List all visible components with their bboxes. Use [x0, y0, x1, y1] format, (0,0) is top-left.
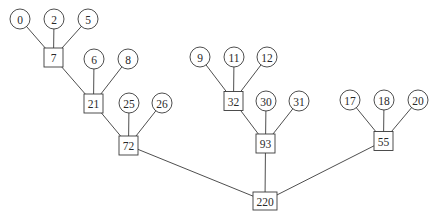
node-label: 220	[256, 196, 274, 208]
node-label: 18	[378, 95, 390, 107]
node-label: 12	[261, 52, 273, 64]
edges-layer	[20, 19, 418, 201]
node-label: 17	[344, 95, 356, 107]
node-label: 20	[412, 95, 424, 107]
leaf-node-0: 0	[10, 9, 30, 29]
internal-node-32: 32	[224, 92, 243, 111]
node-label: 93	[260, 138, 272, 150]
node-label: 5	[85, 14, 91, 26]
leaf-node-6: 6	[84, 49, 104, 69]
leaf-node-20: 20	[408, 90, 428, 110]
node-label: 7	[51, 52, 57, 64]
node-label: 31	[293, 96, 305, 108]
node-label: 30	[260, 96, 272, 108]
tree-diagram: 02576821252672911123230319317182055220	[0, 0, 437, 219]
edge-55-to-220	[265, 141, 384, 201]
node-label: 6	[91, 54, 97, 66]
leaf-node-12: 12	[257, 47, 277, 67]
leaf-node-8: 8	[118, 49, 138, 69]
leaf-node-30: 30	[256, 91, 276, 111]
internal-node-55: 55	[374, 132, 393, 151]
node-label: 32	[228, 96, 240, 108]
internal-node-220: 220	[253, 192, 277, 210]
leaf-node-18: 18	[374, 90, 394, 110]
nodes-layer: 02576821252672911123230319317182055220	[10, 9, 428, 210]
leaf-node-2: 2	[44, 9, 64, 29]
leaf-node-5: 5	[78, 9, 98, 29]
node-label: 0	[17, 14, 23, 26]
leaf-node-31: 31	[289, 91, 309, 111]
node-label: 26	[156, 98, 168, 110]
node-label: 25	[123, 98, 135, 110]
internal-node-93: 93	[256, 134, 275, 153]
internal-node-7: 7	[44, 48, 63, 67]
node-label: 72	[123, 140, 135, 152]
node-label: 8	[125, 54, 131, 66]
node-label: 21	[88, 98, 100, 110]
node-label: 2	[51, 14, 57, 26]
node-label: 11	[228, 52, 239, 64]
edge-72-to-220	[129, 146, 266, 202]
leaf-node-26: 26	[152, 93, 172, 113]
internal-node-21: 21	[84, 94, 103, 113]
leaf-node-9: 9	[190, 47, 210, 67]
tree-svg: 02576821252672911123230319317182055220	[0, 0, 437, 219]
internal-node-72: 72	[119, 136, 138, 155]
leaf-node-25: 25	[119, 93, 139, 113]
leaf-node-11: 11	[224, 47, 244, 67]
node-label: 55	[378, 136, 390, 148]
node-label: 9	[197, 52, 203, 64]
leaf-node-17: 17	[340, 90, 360, 110]
